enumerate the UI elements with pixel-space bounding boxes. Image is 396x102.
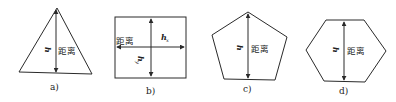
pentagon-outline <box>212 12 287 80</box>
figure-a-triangle: h 距离 a) <box>19 8 92 92</box>
figure-b-square: 距离 h x h y b) <box>115 17 186 96</box>
height-label: h <box>43 47 53 53</box>
hexagon-outline <box>306 20 386 82</box>
height-label: h <box>331 47 341 53</box>
distance-label: 距离 <box>116 36 134 46</box>
height-label: h <box>235 45 245 51</box>
distance-label: 距离 <box>251 44 269 54</box>
figure-d-hexagon: h 距离 d) <box>306 20 386 96</box>
caption-b: b) <box>146 86 155 96</box>
distance-label: 距离 <box>347 46 365 56</box>
distance-label: 距离 <box>58 46 76 56</box>
caption-c: c) <box>243 84 252 94</box>
height-label-y-subscript: y <box>134 60 141 64</box>
figure-c-pentagon: h 距离 c) <box>212 12 287 94</box>
caption-a: a) <box>50 82 59 92</box>
diagram-canvas: h 距离 a) 距离 h x h y b) h 距离 c) <box>0 0 396 102</box>
caption-d: d) <box>339 86 348 96</box>
height-label-x-subscript: x <box>166 37 169 43</box>
